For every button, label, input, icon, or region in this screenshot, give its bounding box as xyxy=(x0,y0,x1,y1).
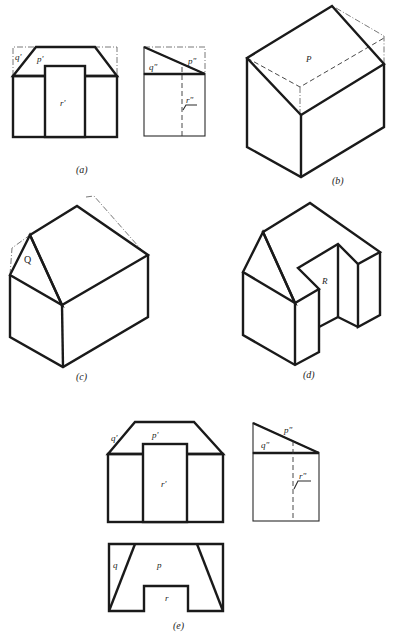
figure-c: Q (c) xyxy=(10,196,148,383)
body-outline xyxy=(10,255,148,367)
roof-top xyxy=(263,203,380,303)
roof-plane-P xyxy=(247,6,384,115)
figure-d: R (d) xyxy=(243,203,380,381)
caption-b: (b) xyxy=(332,175,344,187)
label-q-prime: q' xyxy=(111,433,119,443)
roof-top xyxy=(30,206,148,305)
label-q-prime: q' xyxy=(15,52,23,62)
label-p-double: p" xyxy=(187,56,197,66)
right-diagonal xyxy=(197,544,223,611)
label-r-double: r" xyxy=(186,95,194,105)
left-diagonal xyxy=(109,544,135,611)
leader-r xyxy=(294,481,311,489)
label-p-prime: p' xyxy=(36,54,45,64)
gable-triangle xyxy=(243,232,295,303)
label-r: r xyxy=(165,593,169,603)
side-body xyxy=(253,453,319,521)
label-q-double: q" xyxy=(261,440,270,450)
technical-drawing-sheet: q' p' r' q" p" r" (a) P (b) xyxy=(0,0,394,641)
label-Q: Q xyxy=(24,254,32,265)
label-p-double: p" xyxy=(283,425,293,435)
figure-e: q' p' r' q" p" r" q p r (e) xyxy=(108,422,319,632)
label-R: R xyxy=(321,276,328,286)
figure-e-top-view: q p r xyxy=(109,544,223,611)
triangle-Q xyxy=(10,235,62,305)
left-wing xyxy=(243,272,319,365)
figure-a-front-view: q' p' r' xyxy=(13,47,117,137)
figure-a-side-view: q" p" r" xyxy=(144,47,205,136)
caption-a: (a) xyxy=(76,164,88,176)
figure-e-side-view: q" p" r" xyxy=(253,423,319,521)
figure-a: q' p' r' q" p" r" (a) xyxy=(13,47,205,176)
label-q: q xyxy=(113,560,118,570)
caption-e: (e) xyxy=(173,620,185,632)
figure-e-front-view: q' p' r' xyxy=(108,422,223,522)
label-q-double: q" xyxy=(149,62,158,72)
front-corner-edge xyxy=(62,305,63,367)
caption-c: (c) xyxy=(76,371,88,383)
leader-r xyxy=(183,105,197,110)
notch-floor xyxy=(319,317,358,327)
label-P: P xyxy=(305,54,312,64)
figure-b: P (b) xyxy=(247,6,384,187)
caption-d: (d) xyxy=(303,369,315,381)
label-p: p xyxy=(156,560,162,570)
label-p-prime: p' xyxy=(151,430,160,440)
label-r-double: r" xyxy=(299,471,307,481)
